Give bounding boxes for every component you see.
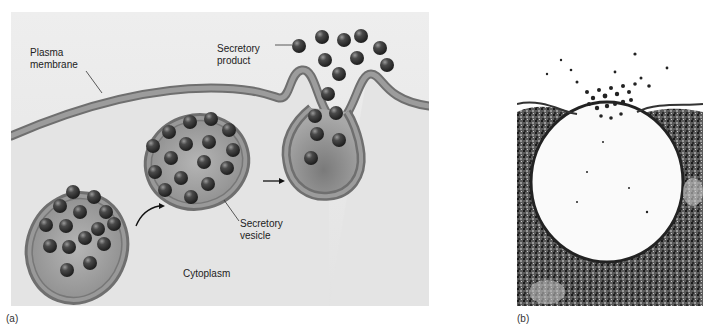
- label-plasma-membrane: Plasma membrane: [30, 47, 78, 71]
- diagram-panel-a: Plasma membrane Secretory product Secret…: [11, 12, 429, 306]
- panel-a-tag: (a): [6, 313, 18, 324]
- panel-b-tag: (b): [517, 313, 529, 324]
- label-secretory-vesicle: Secretory vesicle: [240, 218, 283, 242]
- micrograph-panel-b: [517, 12, 703, 306]
- label-secretory-product: Secretory product: [217, 43, 260, 67]
- label-cytoplasm: Cytoplasm: [183, 268, 230, 280]
- electron-micrograph: [517, 12, 703, 306]
